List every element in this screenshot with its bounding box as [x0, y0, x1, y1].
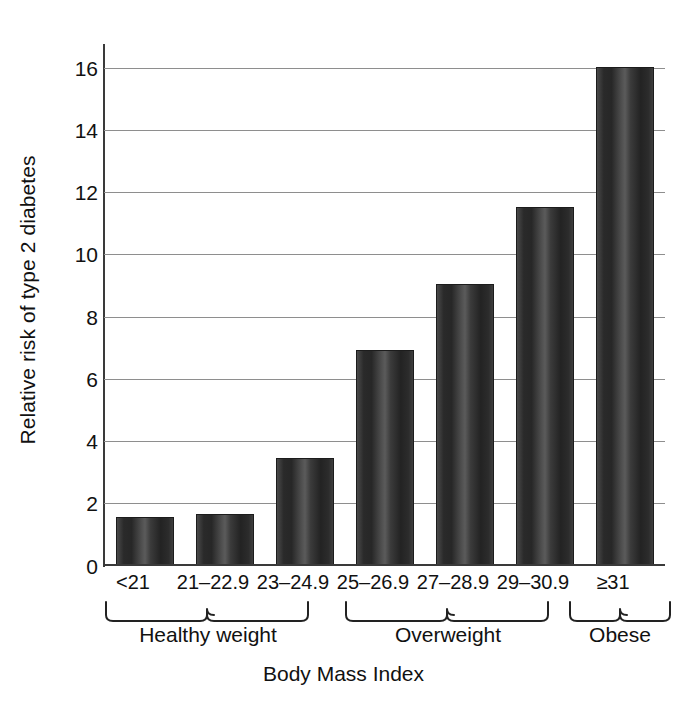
y-axis-title-text: Relative risk of type 2 diabetes	[16, 155, 40, 444]
bar-27-28_9[interactable]	[436, 284, 494, 564]
bar-25-26_9[interactable]	[356, 350, 414, 564]
group-label-obese: Obese	[568, 624, 672, 645]
y-axis-tick-labels: 16 14 12 10 8 6 4 2 0	[50, 0, 98, 702]
plot-area	[104, 50, 665, 565]
y-tick-label: 10	[58, 244, 98, 265]
y-tick-label: 14	[58, 120, 98, 141]
brace-overweight	[344, 601, 552, 623]
brace-obese	[568, 601, 672, 623]
bar-chart-figure: Relative risk of type 2 diabetes 16 14 1…	[0, 0, 687, 702]
bar-lt21[interactable]	[116, 517, 174, 564]
y-axis-title: Relative risk of type 2 diabetes	[0, 0, 56, 600]
group-label-healthy-weight: Healthy weight	[104, 624, 312, 645]
gridline-8	[104, 317, 665, 318]
gridline-10	[104, 254, 665, 255]
gridline-12	[104, 192, 665, 193]
group-label-overweight: Overweight	[344, 624, 552, 645]
x-axis-title: Body Mass Index	[0, 662, 687, 686]
bar-23-24_9[interactable]	[276, 458, 334, 564]
y-tick-label: 12	[58, 182, 98, 203]
gridline-16	[104, 68, 665, 69]
brace-healthy-weight	[104, 601, 312, 623]
y-tick-label: 2	[58, 493, 98, 514]
gridline-14	[104, 130, 665, 131]
bar-gte31[interactable]	[596, 67, 654, 564]
y-tick-label: 6	[58, 369, 98, 390]
y-tick-label: 16	[58, 58, 98, 79]
x-tick-label-gte31: ≥31	[566, 572, 660, 592]
bar-21-22_9[interactable]	[196, 514, 254, 564]
bar-29-30_9[interactable]	[516, 207, 574, 564]
y-tick-label: 8	[58, 307, 98, 328]
x-axis-baseline	[104, 564, 665, 566]
plot-inner	[104, 50, 665, 565]
y-tick-label: 4	[58, 431, 98, 452]
